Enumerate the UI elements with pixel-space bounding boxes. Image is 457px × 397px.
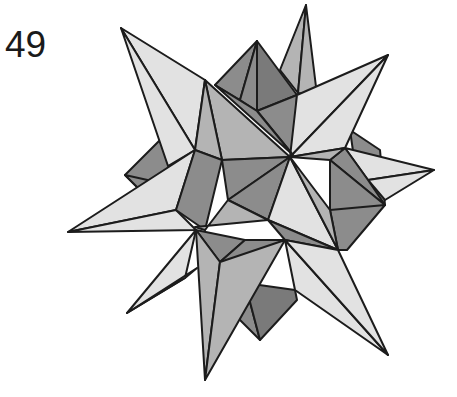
- face: [127, 230, 196, 313]
- face: [330, 205, 385, 250]
- polyhedron-illustration: [0, 0, 457, 397]
- face: [285, 240, 388, 355]
